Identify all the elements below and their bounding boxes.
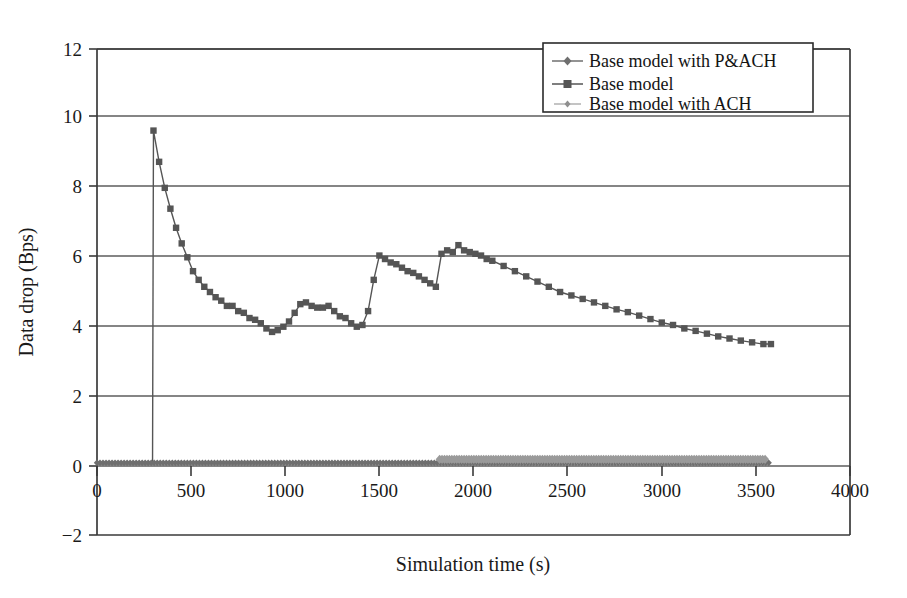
data-point-marker (320, 304, 326, 310)
y-tick-label: 4 (73, 316, 83, 337)
data-point-marker (523, 273, 529, 279)
data-point-marker (291, 310, 297, 316)
data-point-marker (297, 301, 303, 307)
data-point-marker (399, 265, 405, 271)
data-point-marker (613, 306, 619, 312)
y-tick-label: 0 (73, 456, 83, 477)
data-point-marker (438, 251, 444, 257)
data-point-marker (738, 337, 744, 343)
data-point-marker (670, 322, 676, 328)
x-tick-marks (97, 466, 850, 476)
data-point-marker (354, 324, 360, 330)
data-point-marker (546, 284, 552, 290)
data-point-marker (218, 297, 224, 303)
data-point-marker (450, 249, 456, 255)
data-point-marker (421, 277, 427, 283)
data-point-marker (229, 303, 235, 309)
data-point-marker (241, 310, 247, 316)
data-point-marker (325, 303, 331, 309)
data-point-marker (303, 299, 309, 305)
legend: Base model with P&ACH Base model Base mo… (543, 43, 813, 114)
y-tick-label: 12 (63, 39, 82, 60)
x-tick-label: 4000 (831, 480, 869, 501)
chart-canvas: 12 10 8 6 4 2 0 −2 0 500 1000 1500 2000 … (0, 0, 907, 598)
data-point-marker (337, 313, 343, 319)
y-tick-label: 8 (73, 176, 83, 197)
data-point-marker (625, 309, 631, 315)
data-point-marker (534, 278, 540, 284)
data-point-marker (715, 333, 721, 339)
data-point-marker (387, 259, 393, 265)
data-point-marker (365, 308, 371, 314)
square-marker-icon (564, 80, 572, 88)
data-point-marker (342, 315, 348, 321)
data-point-marker (478, 252, 484, 258)
x-tick-labels: 0 500 1000 1500 2000 2500 3000 3500 4000 (92, 480, 869, 501)
data-point-marker (726, 335, 732, 341)
data-point-marker (173, 225, 179, 231)
data-point-marker (179, 240, 185, 246)
data-point-marker (749, 339, 755, 345)
data-point-marker (455, 242, 461, 248)
data-point-marker (557, 289, 563, 295)
data-point-marker (659, 319, 665, 325)
data-point-marker (467, 249, 473, 255)
data-point-marker (636, 312, 642, 318)
data-point-marker (246, 315, 252, 321)
data-point-marker (195, 277, 201, 283)
x-tick-label: 3000 (643, 480, 681, 501)
data-point-marker (235, 308, 241, 314)
data-point-marker (393, 261, 399, 267)
x-tick-label: 1500 (360, 480, 398, 501)
series-line (97, 131, 771, 464)
data-point-marker (263, 325, 269, 331)
x-tick-label: 3500 (737, 480, 775, 501)
data-point-marker (359, 322, 365, 328)
data-point-marker (681, 325, 687, 331)
data-point-marker (433, 284, 439, 290)
data-series-layer (94, 127, 774, 466)
data-point-marker (760, 341, 766, 347)
series-0 (97, 127, 774, 463)
y-tick-label: 6 (73, 246, 83, 267)
data-point-marker (489, 258, 495, 264)
data-point-marker (472, 251, 478, 257)
data-point-marker (348, 320, 354, 326)
legend-label: Base model with ACH (589, 94, 752, 114)
data-point-marker (269, 329, 275, 335)
data-point-marker (258, 320, 264, 326)
data-point-marker (768, 341, 774, 347)
data-point-marker (371, 277, 377, 283)
data-point-marker (212, 294, 218, 300)
x-tick-label: 1000 (266, 480, 304, 501)
data-point-marker (410, 270, 416, 276)
data-point-marker (308, 303, 314, 309)
data-point-marker (416, 273, 422, 279)
data-point-marker (224, 303, 230, 309)
data-point-marker (404, 268, 410, 274)
y-axis-title: Data drop (Bps) (15, 228, 38, 357)
legend-label: Base model (589, 74, 673, 94)
legend-label: Base model with P&ACH (589, 51, 777, 71)
data-point-marker (314, 304, 320, 310)
data-point-marker (156, 159, 162, 165)
data-point-marker (602, 303, 608, 309)
data-point-marker (500, 263, 506, 269)
data-point-marker (704, 330, 710, 336)
data-point-marker (483, 256, 489, 262)
data-point-marker (579, 296, 585, 302)
data-point-marker (275, 327, 281, 333)
data-point-marker (252, 317, 258, 323)
data-point-marker (568, 292, 574, 298)
data-point-marker (184, 254, 190, 260)
chart-figure: 12 10 8 6 4 2 0 −2 0 500 1000 1500 2000 … (0, 0, 907, 598)
y-tick-label: −2 (62, 525, 82, 546)
x-tick-label: 0 (92, 480, 102, 501)
data-point-marker (591, 299, 597, 305)
data-point-marker (286, 318, 292, 324)
data-point-marker (190, 268, 196, 274)
data-point-marker (692, 328, 698, 334)
data-point-marker (512, 268, 518, 274)
data-point-marker (331, 308, 337, 314)
data-point-marker (647, 316, 653, 322)
